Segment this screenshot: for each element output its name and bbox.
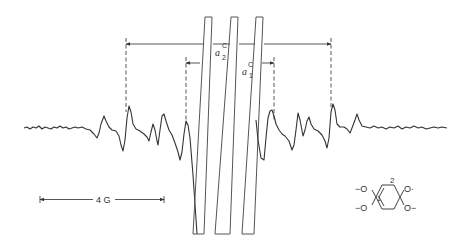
spectrum-trace-left	[24, 106, 197, 234]
a2c-label-main: a	[215, 47, 220, 58]
a2c-label-sub: 2	[222, 54, 226, 61]
a1c-label-sub: 1	[249, 72, 253, 79]
substituent-upper-left: −O	[355, 184, 367, 194]
position-label-1: 1	[377, 195, 381, 202]
substituent-lower-left: −O	[355, 203, 367, 213]
central-line-1	[193, 17, 212, 234]
spectrum-trace-right	[256, 104, 447, 160]
scale-bar: 4 G	[40, 195, 164, 205]
substituent-upper-right: O·	[404, 184, 414, 194]
scale-bar-label: 4 G	[96, 195, 111, 205]
a1c-label-main: a	[242, 66, 247, 77]
a1c-label-sup: C	[248, 61, 253, 68]
position-label-2: 2	[390, 176, 395, 185]
substituent-lower-right: O−	[404, 203, 416, 213]
molecule-structure: −O −O O· O− 2 1	[355, 176, 416, 213]
a2c-label-sup: C	[222, 42, 227, 49]
central-line-3	[242, 17, 263, 234]
epr-spectrum-figure: a C 2 a C 1 4 G −O −O O· O− 2 1	[0, 0, 465, 242]
